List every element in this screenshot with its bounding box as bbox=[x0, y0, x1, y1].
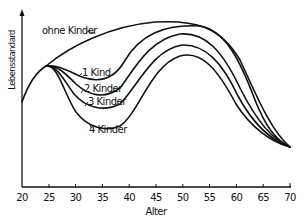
x-axis bbox=[22, 183, 291, 187]
chart-figure: Lebensstandard 20 25 30 35 40 45 50 55 6… bbox=[0, 0, 304, 221]
curve-label-3-kinder: 3 Kinder bbox=[88, 96, 127, 107]
curve-label-2-kinder: 2 Kinder bbox=[84, 83, 123, 94]
x-tick-label: 20 bbox=[16, 192, 28, 203]
x-tick-label: 65 bbox=[257, 192, 269, 203]
x-tick-label: 60 bbox=[231, 192, 243, 203]
x-tick-label: 35 bbox=[97, 192, 109, 203]
x-axis-label: Alter bbox=[146, 206, 168, 217]
x-tick-label: 45 bbox=[150, 192, 162, 203]
curve-label-1-kind: 1 Kind bbox=[82, 67, 111, 78]
x-tick-label: 30 bbox=[70, 192, 82, 203]
y-axis-arrow-icon bbox=[20, 9, 25, 16]
y-axis-label: Lebensstandard bbox=[7, 30, 17, 90]
curve-label-ohne-kinder: ohne Kinder bbox=[42, 25, 98, 36]
x-tick-labels: 20 25 30 35 40 45 50 55 60 65 70 bbox=[16, 192, 296, 203]
curve-label-4-kinder: 4 Kinder bbox=[89, 124, 128, 135]
curve-1-kind bbox=[46, 26, 290, 147]
x-tick-label: 55 bbox=[204, 192, 216, 203]
x-tick-label: 40 bbox=[123, 192, 135, 203]
x-tick-label: 70 bbox=[284, 192, 296, 203]
x-tick-label: 50 bbox=[177, 192, 189, 203]
x-tick-label: 25 bbox=[43, 192, 55, 203]
